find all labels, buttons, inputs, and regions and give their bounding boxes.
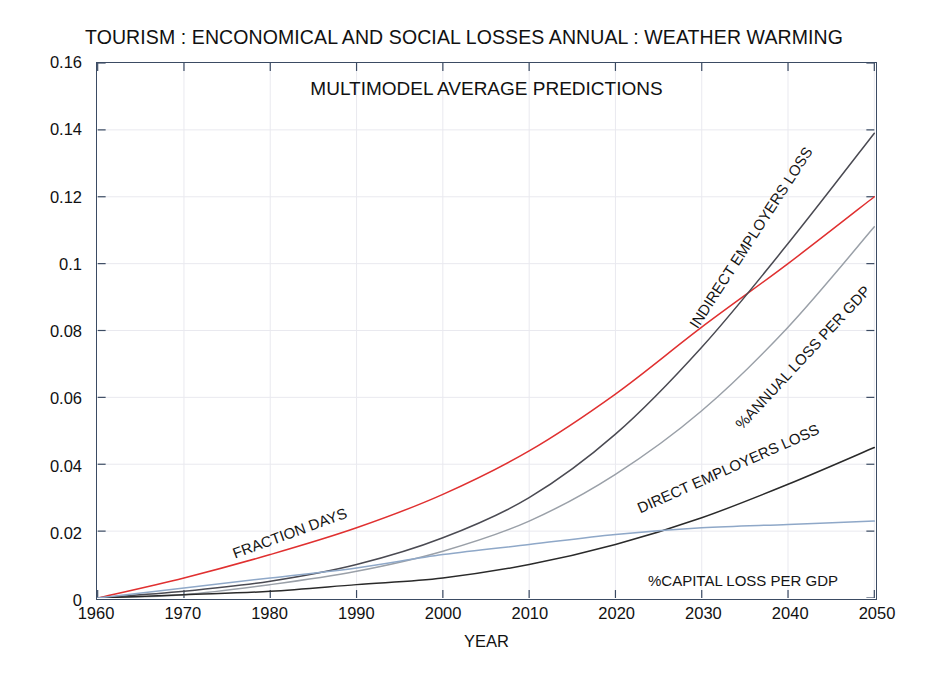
y-tick-label: 0.06: [30, 389, 82, 408]
x-tick-label: 1970: [148, 604, 218, 623]
y-tick-label: 0.02: [30, 523, 82, 542]
x-tick-label: 2050: [842, 604, 912, 623]
y-axis-tick-labels: 00.020.040.060.080.10.120.140.16: [30, 0, 82, 674]
x-tick-label: 1990: [321, 604, 391, 623]
x-tick-label: 2010: [495, 604, 565, 623]
x-tick-label: 2020: [582, 604, 652, 623]
chart-figure: TOURISM : ENCONOMICAL AND SOCIAL LOSSES …: [0, 0, 928, 674]
y-tick-label: 0.14: [30, 120, 82, 139]
plot-area: [96, 62, 877, 600]
page-title: TOURISM : ENCONOMICAL AND SOCIAL LOSSES …: [0, 26, 928, 49]
plot-canvas: [97, 63, 875, 598]
x-tick-label: 2040: [755, 604, 825, 623]
chart-subtitle: MULTIMODEL AVERAGE PREDICTIONS: [96, 78, 877, 100]
series-line: [98, 133, 875, 598]
y-tick-label: 0.12: [30, 187, 82, 206]
y-tick-label: 0.04: [30, 456, 82, 475]
y-tick-label: 0.08: [30, 322, 82, 341]
x-tick-label: 2030: [668, 604, 738, 623]
y-tick-label: 0.16: [30, 53, 82, 72]
x-axis-label: YEAR: [96, 632, 877, 651]
curve-label: %CAPITAL LOSS PER GDP: [648, 572, 838, 589]
x-tick-label: 1980: [235, 604, 305, 623]
y-tick-label: 0.1: [30, 254, 82, 273]
x-tick-label: 1960: [61, 604, 131, 623]
x-tick-label: 2000: [408, 604, 478, 623]
